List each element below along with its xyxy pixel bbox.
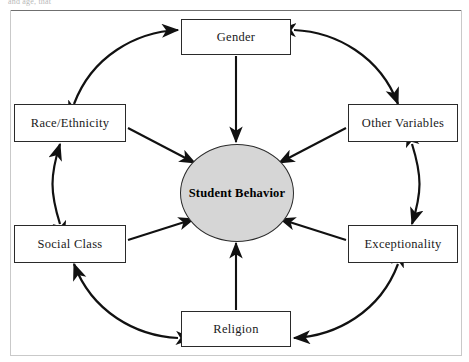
spoke-race-to-hub (128, 128, 195, 163)
node-race-ethnicity[interactable]: Race/Ethnicity (14, 104, 126, 142)
ring-arrow-other-exceptionality (412, 144, 420, 224)
diagram-page: and age, that Gender Oth (0, 0, 469, 362)
hub-student-behavior[interactable]: Student Behavior (180, 144, 294, 242)
node-social-class[interactable]: Social Class (14, 225, 126, 263)
spoke-social-to-hub (128, 219, 194, 240)
node-exceptionality[interactable]: Exceptionality (348, 225, 458, 263)
ring-arrow-exceptionality-religion (294, 264, 398, 338)
hub-label: Student Behavior (189, 186, 286, 201)
spoke-other-to-hub (279, 128, 346, 163)
ring-arrow-race-gender (74, 30, 178, 104)
node-religion-label: Religion (213, 322, 258, 337)
ring-arrow-social-race (53, 144, 61, 224)
ring-arrow-gender-other (294, 30, 398, 104)
ring-arrow-religion-social (74, 264, 178, 338)
spoke-exceptionality-to-hub (280, 219, 346, 240)
node-social-class-label: Social Class (37, 237, 102, 252)
node-race-ethnicity-label: Race/Ethnicity (31, 116, 109, 131)
node-religion[interactable]: Religion (181, 311, 291, 347)
node-gender-label: Gender (217, 30, 256, 45)
node-other-variables[interactable]: Other Variables (348, 104, 458, 142)
node-exceptionality-label: Exceptionality (364, 237, 441, 252)
node-other-variables-label: Other Variables (362, 116, 444, 131)
node-gender[interactable]: Gender (181, 19, 291, 55)
